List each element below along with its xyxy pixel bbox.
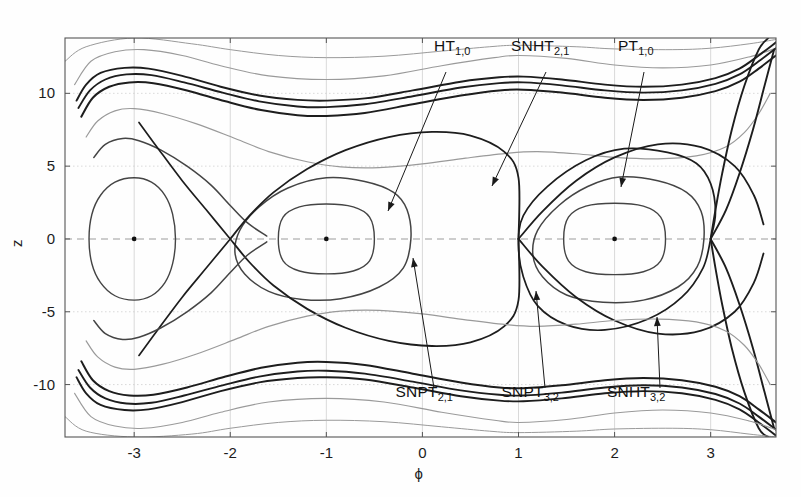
phase-curve [86,310,770,385]
x-tick-label: 1 [494,444,544,461]
phase-curve [519,143,764,238]
plot-canvas [0,0,801,497]
phase-curve [711,50,774,239]
annotation-subscript: 2,1 [554,45,569,57]
annotation-leader-snpt32 [536,291,545,388]
phase-curve [65,38,776,61]
annotation-subscript: 1,0 [455,45,470,57]
annotation-leader-pt10 [621,72,644,187]
phase-curve [139,122,230,239]
annotation-arrowhead-snht32 [654,317,661,326]
phase-curve [75,48,776,84]
annotation-base: SNPT [502,383,544,400]
annotation-label-snht32: SNHT3,2 [607,383,665,403]
center-fixed-point [612,237,617,242]
annotation-subscript: 3,2 [650,391,665,403]
x-tick-label: 0 [397,444,447,461]
x-tick-label: -3 [109,444,159,461]
annotation-label-snpt32: SNPT3,2 [502,383,559,403]
phase-curve [711,239,774,428]
annotation-subscript: 3,2 [544,391,559,403]
y-tick-label: -5 [10,303,55,320]
phase-curve [230,239,519,346]
phase-curve [65,417,776,437]
annotation-arrowhead-snpt21 [411,258,418,267]
y-tick-label: 5 [10,157,55,174]
x-tick-label: 2 [590,444,640,461]
y-tick-label: 10 [10,84,55,101]
annotation-base: SNHT [511,37,554,54]
y-axis-title: z [8,239,25,247]
phase-portrait-figure: -3-2-101231050-5-10ϕzHT1,0SNHT2,1PT1,0SN… [0,0,801,497]
plot-frame [65,38,776,437]
x-axis-title: ϕ [414,465,422,482]
curve-group [65,38,776,437]
annotation-arrowhead-snht21 [492,176,499,186]
center-fixed-point [132,237,137,242]
phase-curve [94,138,267,236]
phase-curve [94,242,267,340]
annotation-arrowhead-snpt32 [533,291,540,300]
phase-curve [86,93,770,168]
annotation-subscript: 2,1 [438,391,453,403]
annotation-label-snht21: SNHT2,1 [511,37,569,57]
annotation-arrowhead-pt10 [619,178,626,187]
annotation-subscript: 1,0 [638,45,653,57]
annotation-base: SNHT [607,383,650,400]
annotation-label-ht10: HT1,0 [434,37,470,57]
annotation-arrowhead-ht10 [388,201,395,211]
phase-curve [139,239,230,355]
x-tick-label: -2 [205,444,255,461]
annotation-base: SNPT [396,383,438,400]
annotation-leader-snpt21 [413,258,434,388]
annotation-base: PT [618,37,638,54]
phase-curve [230,132,519,239]
x-tick-label: 3 [686,444,736,461]
annotation-label-snpt21: SNPT2,1 [396,383,453,403]
x-tick-label: -1 [301,444,351,461]
annotation-label-pt10: PT1,0 [618,37,654,57]
annotation-base: HT [434,37,455,54]
y-tick-label: -10 [10,376,55,393]
center-fixed-point [324,237,329,242]
